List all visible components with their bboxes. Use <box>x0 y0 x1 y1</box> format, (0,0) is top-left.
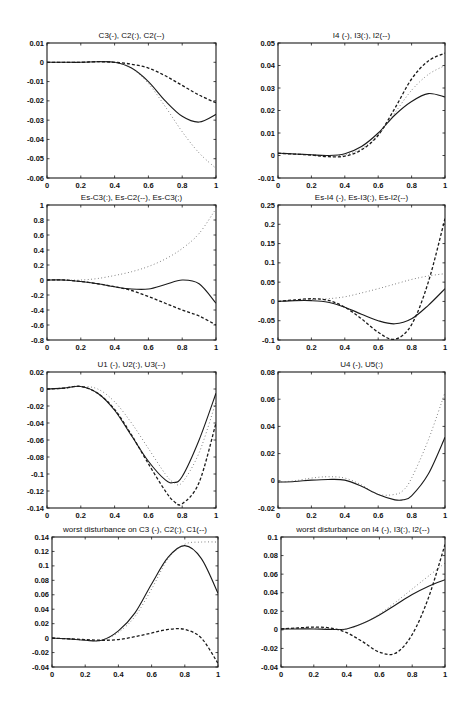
series-line-dashed <box>278 53 445 157</box>
y-tick-label: 0.08 <box>260 368 275 377</box>
x-tick-label: 0.6 <box>373 181 383 190</box>
y-tick-label: 0.02 <box>34 619 49 628</box>
series-line-dotted <box>52 542 218 641</box>
x-tick-label: 0 <box>276 181 280 190</box>
x-tick-label: 0.2 <box>306 511 316 520</box>
y-tick-label: 0.1 <box>268 533 278 542</box>
x-tick-label: 0.2 <box>76 511 86 520</box>
y-tick-label: -0.05 <box>27 154 44 163</box>
x-tick-label: 0.2 <box>76 343 86 352</box>
y-tick-label: 0.1 <box>39 561 49 570</box>
y-tick-label: 0.02 <box>260 106 275 115</box>
y-tick-label: 0.12 <box>34 547 49 556</box>
y-tick-label: 0 <box>271 297 275 306</box>
y-tick-label: -0.08 <box>27 453 44 462</box>
x-tick-label: 0 <box>50 670 54 679</box>
x-tick-label: 0.8 <box>180 670 190 679</box>
x-tick-label: 0.6 <box>143 511 153 520</box>
y-tick-label: 0.6 <box>34 231 44 240</box>
series-line-solid <box>52 546 218 641</box>
x-tick-label: 0.8 <box>407 670 417 679</box>
y-tick-label: 0.06 <box>263 570 278 579</box>
series-group <box>281 544 445 654</box>
x-tick-label: 1 <box>443 670 447 679</box>
y-tick-label: -0.06 <box>27 174 44 183</box>
subplot-title: U4 (-), U5(:) <box>340 360 383 369</box>
y-tick-label: -0.04 <box>32 663 50 672</box>
series-line-solid <box>278 437 445 500</box>
y-tick-label: 0.2 <box>265 220 275 229</box>
y-tick-label: 0 <box>271 476 275 485</box>
y-tick-label: -0.6 <box>31 321 44 330</box>
y-tick-label: -0.1 <box>262 336 275 345</box>
series-line-dashed <box>278 219 445 340</box>
y-tick-label: 0 <box>40 385 44 394</box>
subplot-title: worst disturbance on C3 (-), C2(:), C1(-… <box>62 525 207 534</box>
x-tick-label: 0.4 <box>109 511 120 520</box>
y-tick-label: 1 <box>40 201 44 210</box>
y-tick-label: -0.06 <box>27 436 44 445</box>
x-tick-label: 1 <box>214 343 218 352</box>
axes-box <box>278 43 445 178</box>
series-group <box>47 62 216 169</box>
y-tick-label: 0.08 <box>263 551 278 560</box>
x-tick-label: 0.2 <box>306 181 316 190</box>
y-tick-label: 0.03 <box>260 84 275 93</box>
x-tick-label: 0.4 <box>109 343 120 352</box>
y-tick-label: 0.15 <box>260 239 275 248</box>
axes-box <box>52 537 218 667</box>
x-tick-label: 0.2 <box>80 670 90 679</box>
axes-box <box>47 43 216 178</box>
x-tick-label: 0.6 <box>373 511 383 520</box>
x-tick-label: 0.6 <box>146 670 156 679</box>
subplot-title: Es-C3(:), Es-C2(--), Es-C3(;) <box>81 193 183 202</box>
x-tick-label: 0.2 <box>76 181 86 190</box>
series-line-solid <box>47 62 216 122</box>
series-line-dashed <box>47 280 216 325</box>
y-tick-label: 0.2 <box>34 261 44 270</box>
x-tick-label: 1 <box>214 181 218 190</box>
subplot-p1: C3(-), C2(:), C2(--)00.20.40.60.810.010-… <box>27 31 218 190</box>
x-tick-label: 0 <box>45 343 49 352</box>
x-tick-label: 0.4 <box>341 670 352 679</box>
y-tick-label: 0 <box>40 276 44 285</box>
y-tick-label: 0 <box>45 634 49 643</box>
axes-box <box>278 372 445 508</box>
y-tick-label: 0.06 <box>34 590 49 599</box>
y-tick-label: 0 <box>271 151 275 160</box>
x-tick-label: 0.6 <box>374 670 384 679</box>
y-tick-label: -0.02 <box>32 648 49 657</box>
x-tick-label: 1 <box>443 511 447 520</box>
x-tick-label: 0.8 <box>177 343 187 352</box>
y-tick-label: 0.01 <box>260 129 275 138</box>
y-tick-label: -0.02 <box>261 644 278 653</box>
subplot-p6: U4 (-), U5(:)00.20.40.60.810.080.060.040… <box>258 360 447 520</box>
x-tick-label: 0.4 <box>113 670 124 679</box>
subplot-p3: Es-C3(:), Es-C2(--), Es-C3(;)00.20.40.60… <box>31 193 218 352</box>
series-line-solid <box>278 94 445 156</box>
y-tick-label: -0.1 <box>31 470 44 479</box>
y-tick-label: -0.05 <box>258 316 275 325</box>
y-tick-label: -0.03 <box>27 116 44 125</box>
series-line-dashed <box>47 386 216 505</box>
x-tick-label: 0.2 <box>309 670 319 679</box>
series-group <box>278 392 445 500</box>
series-line-dotted <box>278 274 445 302</box>
series-line-dotted <box>47 209 216 280</box>
y-tick-label: -0.04 <box>261 663 279 672</box>
x-tick-label: 0.4 <box>340 511 351 520</box>
x-tick-label: 0.8 <box>406 181 416 190</box>
y-tick-label: 0.04 <box>260 61 275 70</box>
series-line-solid <box>281 580 445 630</box>
x-tick-label: 1 <box>443 181 447 190</box>
y-tick-label: 0.02 <box>263 607 278 616</box>
y-tick-label: -0.8 <box>31 336 44 345</box>
x-tick-label: 0.8 <box>177 511 187 520</box>
y-tick-label: -0.02 <box>27 402 44 411</box>
subplot-p8: worst disturbance on I4 (-), I3(:), I2(-… <box>261 525 447 679</box>
series-line-dashed <box>281 544 445 654</box>
subplot-title: U1 (-), U2(:), U3(--) <box>98 360 166 369</box>
y-tick-label: 0 <box>40 58 44 67</box>
x-tick-label: 0 <box>276 343 280 352</box>
y-tick-label: 0.25 <box>260 201 275 210</box>
